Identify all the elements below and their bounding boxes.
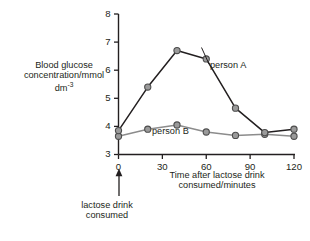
y-tick-label-3: 3 (0, 148, 111, 159)
data-point (145, 84, 151, 90)
x-tick-label-90: 90 (230, 161, 270, 172)
x-axis-label-line1: Time after lactose drink (169, 170, 264, 180)
x-axis-label-line2: consumed/minutes (178, 180, 255, 190)
data-point (291, 126, 297, 132)
series-label-person-b: person B (152, 126, 189, 136)
data-point (145, 126, 151, 132)
series-label-person-a: person A (210, 60, 246, 70)
x-tick-label-0: 0 (99, 161, 139, 172)
data-point (232, 105, 238, 111)
y-axis-label-exponent: -3 (67, 81, 73, 88)
y-tick-label-5: 5 (0, 92, 111, 103)
data-point (291, 133, 297, 139)
y-tick-label-8: 8 (0, 8, 111, 19)
lactose-drink-annotation: lactose drinkconsumed (52, 200, 162, 221)
data-point (262, 129, 268, 135)
x-tick-label-120: 120 (274, 161, 310, 172)
lactose-drink-annotation-line2: consumed (86, 210, 128, 220)
lactose-drink-annotation-line1: lactose drink (81, 200, 133, 210)
data-point (174, 47, 180, 53)
x-axis-label: Time after lactose drinkconsumed/minutes (133, 170, 301, 191)
y-tick-label-7: 7 (0, 36, 111, 47)
data-point (203, 129, 209, 135)
data-point (232, 132, 238, 138)
y-tick-label-6: 6 (0, 64, 111, 75)
data-point (115, 128, 121, 134)
x-tick-label-60: 60 (186, 161, 226, 172)
cropped-caption-remnant (96, 0, 97, 5)
y-tick-label-4: 4 (0, 120, 111, 131)
x-tick-label-30: 30 (142, 161, 182, 172)
